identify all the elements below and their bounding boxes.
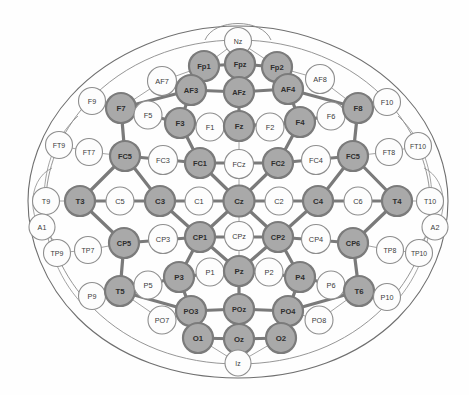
electrode-circle xyxy=(44,240,71,267)
electrode-circle xyxy=(306,65,335,94)
electrode-c4[interactable]: C4 xyxy=(303,186,333,216)
electrode-circle xyxy=(302,225,331,254)
electrode-p10[interactable]: P10 xyxy=(374,284,401,311)
electrode-p6[interactable]: P6 xyxy=(317,271,345,299)
electrode-circle xyxy=(65,186,95,216)
electrode-circle xyxy=(305,306,333,334)
electrode-circle xyxy=(376,139,403,166)
electrode-cp3[interactable]: CP3 xyxy=(149,225,178,254)
electrode-tp10[interactable]: TP10 xyxy=(406,240,433,267)
electrode-fpz[interactable]: Fpz xyxy=(225,49,255,79)
electrode-circle xyxy=(33,188,60,215)
electrode-cp2[interactable]: CP2 xyxy=(263,222,293,252)
electrode-cpz[interactable]: CPz xyxy=(225,222,254,251)
electrode-fc1[interactable]: FC1 xyxy=(185,148,215,178)
electrode-circle xyxy=(185,148,215,178)
electrode-cp5[interactable]: CP5 xyxy=(109,228,139,258)
electrode-iz[interactable]: Iz xyxy=(225,350,251,376)
electrode-circle xyxy=(406,240,433,267)
electrode-f1[interactable]: F1 xyxy=(196,113,224,141)
electrode-circle xyxy=(176,75,206,105)
electrode-a1[interactable]: A1 xyxy=(29,214,55,240)
electrode-c3[interactable]: C3 xyxy=(145,186,175,216)
electrode-afz[interactable]: AFz xyxy=(224,77,254,107)
electrode-f2[interactable]: F2 xyxy=(256,113,284,141)
electrode-p5[interactable]: P5 xyxy=(134,271,162,299)
electrode-circle xyxy=(46,132,73,159)
electrode-poz[interactable]: POz xyxy=(224,294,254,324)
electrode-af4[interactable]: AF4 xyxy=(273,74,303,104)
electrode-tp9[interactable]: TP9 xyxy=(44,240,71,267)
electrode-fc3[interactable]: FC3 xyxy=(149,146,178,175)
electrode-p9[interactable]: P9 xyxy=(79,283,106,310)
electrode-af3[interactable]: AF3 xyxy=(176,75,206,105)
electrode-circle xyxy=(374,284,401,311)
electrode-t10[interactable]: T10 xyxy=(417,188,444,215)
electrode-cp4[interactable]: CP4 xyxy=(302,225,331,254)
electrode-t4[interactable]: T4 xyxy=(382,186,412,216)
electrode-c2[interactable]: C2 xyxy=(265,187,293,215)
electrode-fcz[interactable]: FCz xyxy=(225,150,254,179)
electrode-po7[interactable]: PO7 xyxy=(148,306,176,334)
electrode-pz[interactable]: Pz xyxy=(224,256,254,286)
electrode-p3[interactable]: P3 xyxy=(164,262,194,292)
electrode-circle xyxy=(285,107,315,137)
electrode-fc6[interactable]: FC5 xyxy=(338,141,368,171)
electrode-cz[interactable]: Cz xyxy=(224,186,255,217)
electrode-circle xyxy=(109,228,139,258)
electrode-f8[interactable]: F8 xyxy=(343,93,373,123)
electrode-f3[interactable]: F3 xyxy=(165,108,195,138)
electrode-a2[interactable]: A2 xyxy=(422,214,448,240)
electrode-af7[interactable]: AF7 xyxy=(148,67,177,96)
electrode-f7[interactable]: F7 xyxy=(106,93,136,123)
electrode-tp7[interactable]: TP7 xyxy=(75,237,102,264)
electrode-p1[interactable]: P1 xyxy=(196,258,224,286)
electrode-tp8[interactable]: TP8 xyxy=(377,237,404,264)
electrode-p2[interactable]: P2 xyxy=(255,258,283,286)
electrode-f10[interactable]: F10 xyxy=(374,89,401,116)
electrode-p4[interactable]: P4 xyxy=(285,262,315,292)
electrode-ft7[interactable]: FT7 xyxy=(76,139,103,166)
electrode-af8[interactable]: AF8 xyxy=(306,65,335,94)
electrode-t9[interactable]: T9 xyxy=(33,188,60,215)
electrode-po4[interactable]: PO4 xyxy=(273,296,303,326)
electrode-c6[interactable]: C6 xyxy=(344,187,372,215)
electrode-circle xyxy=(196,258,224,286)
electrode-c5[interactable]: C5 xyxy=(106,187,134,215)
electrode-circle xyxy=(134,101,162,129)
electrode-f4[interactable]: F4 xyxy=(285,107,315,137)
electrode-circle xyxy=(75,237,102,264)
electrode-t6[interactable]: T6 xyxy=(344,276,374,306)
electrode-circle xyxy=(225,222,254,251)
electrode-t3[interactable]: T3 xyxy=(65,186,95,216)
electrode-fc2[interactable]: FC2 xyxy=(263,148,293,178)
electrode-circle xyxy=(405,133,432,160)
electrode-ft9[interactable]: FT9 xyxy=(46,132,73,159)
electrode-circle xyxy=(106,187,134,215)
electrode-f9[interactable]: F9 xyxy=(79,88,106,115)
electrode-o1[interactable]: O1 xyxy=(183,323,213,353)
electrode-circle xyxy=(263,222,293,252)
electrode-circle xyxy=(263,148,293,178)
electrode-circle xyxy=(417,188,444,215)
electrode-circle xyxy=(317,271,345,299)
electrode-t5[interactable]: T5 xyxy=(105,276,135,306)
electrode-po8[interactable]: PO8 xyxy=(305,306,333,334)
electrode-cp6[interactable]: CP6 xyxy=(338,228,368,258)
electrode-ft8[interactable]: FT8 xyxy=(376,139,403,166)
electrode-o2[interactable]: O2 xyxy=(266,323,296,353)
electrode-circle xyxy=(224,77,254,107)
electrode-circle xyxy=(29,214,55,240)
electrode-fc5[interactable]: FC5 xyxy=(110,141,140,171)
electrode-ft10[interactable]: FT10 xyxy=(405,133,432,160)
electrode-f5[interactable]: F5 xyxy=(134,101,162,129)
electrode-fc4[interactable]: FC4 xyxy=(302,146,331,175)
eeg-montage-svg: NzFp1FpzFp2AF7AF3AFzAF4AF8F9F7F5F3F1FzF2… xyxy=(0,0,469,395)
electrode-cp1[interactable]: CP1 xyxy=(185,222,215,252)
electrode-circle xyxy=(273,296,303,326)
electrode-circle xyxy=(382,186,412,216)
electrode-po3[interactable]: PO3 xyxy=(176,296,206,326)
electrode-f6[interactable]: F6 xyxy=(317,102,345,130)
electrode-fz[interactable]: Fz xyxy=(224,111,254,141)
electrode-c1[interactable]: C1 xyxy=(185,187,213,215)
